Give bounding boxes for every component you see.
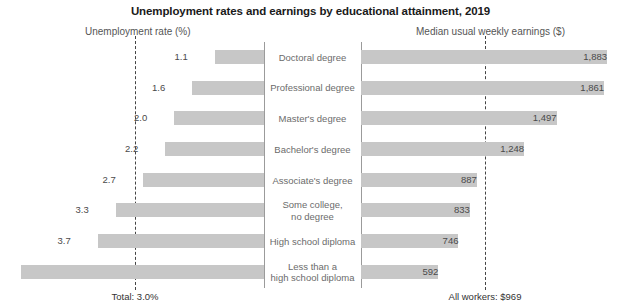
right-axis-label: Median usual weekly earnings ($)	[416, 26, 565, 37]
category-label: Associate's degree	[264, 167, 361, 194]
unemployment-bar	[192, 81, 264, 95]
unemployment-value-label: 2.7	[99, 173, 143, 187]
category-label: High school diploma	[264, 228, 361, 255]
unemployment-bar	[98, 234, 265, 248]
chart-title: Unemployment rates and earnings by educa…	[0, 5, 621, 17]
category-label: Master's degree	[264, 105, 361, 132]
left-total-footnote: Total: 3.0%	[112, 291, 159, 302]
chart-row: 1.11,883Doctoral degree	[0, 42, 621, 73]
unemployment-bar	[116, 203, 265, 217]
earnings-value-label: 1,861	[560, 81, 608, 95]
category-label: Less than a high school diploma	[264, 259, 361, 286]
earnings-value-label: 592	[394, 265, 442, 279]
chart-row: 3.7746High school diploma	[0, 226, 621, 257]
earnings-value-label: 1,248	[480, 142, 528, 156]
unemployment-bar	[215, 50, 265, 64]
unemployment-bar	[165, 142, 264, 156]
earnings-value-label: 1,883	[563, 50, 611, 64]
chart-row: 2.7887Associate's degree	[0, 165, 621, 196]
chart-row: 2.21,248Bachelor's degree	[0, 134, 621, 165]
chart-row: 1.61,861Professional degree	[0, 73, 621, 104]
earnings-value-label: 833	[426, 203, 474, 217]
earnings-value-label: 887	[433, 173, 481, 187]
unemployment-bar	[143, 173, 265, 187]
unemployment-value-label: 3.3	[72, 203, 116, 217]
right-total-footnote: All workers: $969	[449, 291, 522, 302]
unemployment-value-label: 2.0	[130, 111, 174, 125]
category-label: Doctoral degree	[264, 44, 361, 71]
unemployment-bar	[174, 111, 264, 125]
earnings-value-label: 1,497	[513, 111, 561, 125]
chart-row: 3.3833Some college, no degree	[0, 195, 621, 226]
chart-row: 2.01,497Master's degree	[0, 103, 621, 134]
chart-rows: 1.11,883Doctoral degree1.61,861Professio…	[0, 42, 621, 288]
left-axis-label: Unemployment rate (%)	[85, 26, 191, 37]
chart-container: Unemployment rates and earnings by educa…	[0, 0, 621, 308]
category-label: Bachelor's degree	[264, 136, 361, 163]
unemployment-bar	[21, 265, 264, 279]
unemployment-value-label: 1.1	[171, 50, 215, 64]
chart-row: 5.4592Less than a high school diploma	[0, 257, 621, 288]
unemployment-value-label: 2.2	[121, 142, 165, 156]
unemployment-value-label: 1.6	[148, 81, 192, 95]
unemployment-value-label: 5.4	[0, 265, 21, 279]
category-label: Some college, no degree	[264, 197, 361, 224]
category-label: Professional degree	[264, 75, 361, 102]
earnings-value-label: 746	[414, 234, 462, 248]
unemployment-value-label: 3.7	[54, 234, 98, 248]
